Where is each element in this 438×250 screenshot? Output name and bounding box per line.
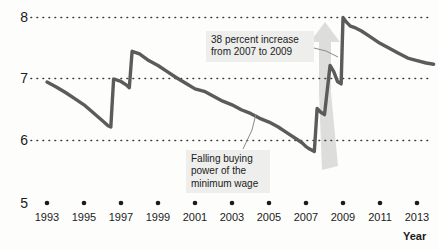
tick-dot [267,201,272,206]
x-tick-label-2011: 2011 [363,211,397,223]
tick-dot [415,201,420,206]
annotation-falling: Falling buying power of the minimum wage [186,150,270,193]
tick-dot [119,201,124,206]
x-tick-label-1995: 1995 [67,211,101,223]
y-tick-label-8: 8 [12,10,28,24]
tick-dot [230,201,235,206]
tick-dot [304,201,309,206]
x-tick-label-2009: 2009 [326,211,360,223]
tick-dot [378,201,383,206]
x-tick-label-2005: 2005 [252,211,286,223]
x-axis-title: Year [403,230,426,242]
x-tick-label-1997: 1997 [104,211,138,223]
y-tick-label-5: 5 [12,196,28,210]
x-tick-label-1999: 1999 [141,211,175,223]
tick-dot [156,201,161,206]
x-tick-label-2013: 2013 [400,211,434,223]
x-tick-label-2003: 2003 [215,211,249,223]
y-tick-label-7: 7 [12,71,28,85]
x-axis-tick-dots [45,201,420,206]
x-tick-label-2001: 2001 [178,211,212,223]
tick-dot [45,201,50,206]
y-tick-label-6: 6 [12,133,28,147]
leader-line-falling [243,114,256,149]
annotation-increase: 38 percent increase from 2007 to 2009 [206,31,314,62]
x-tick-label-1993: 1993 [30,211,64,223]
tick-dot [82,201,87,206]
tick-dot [341,201,346,206]
x-tick-label-2007: 2007 [289,211,323,223]
tick-dot [193,201,198,206]
minimum-wage-line-chart: 8 7 6 5 1993 1995 1997 1999 2001 2003 20… [0,0,438,250]
